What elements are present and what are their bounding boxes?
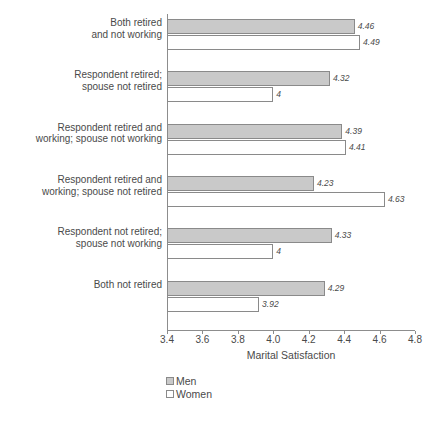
x-tick-label: 4.0 <box>266 334 280 345</box>
bar-value-label: 4.39 <box>342 125 362 137</box>
legend-swatch-men-icon <box>166 377 174 385</box>
plot-area: 4.464.494.3244.394.414.234.634.3344.293.… <box>167 16 415 330</box>
legend-label-men: Men <box>176 375 196 387</box>
x-tick-label: 4.2 <box>302 334 316 345</box>
x-tick-label: 3.6 <box>195 334 209 345</box>
bar-women[interactable] <box>167 87 273 102</box>
bar-men[interactable] <box>167 176 314 191</box>
chart-legend: Men Women <box>166 374 212 400</box>
bar-value-label: 4.63 <box>385 193 405 205</box>
category-label: Respondent retired and working; spouse n… <box>2 174 162 197</box>
bar-group: 4.334 <box>167 227 415 265</box>
bar-women[interactable] <box>167 244 273 259</box>
bar-value-label: 4.33 <box>332 229 352 241</box>
marital-satisfaction-bar-chart: Both retired and not workingRespondent r… <box>0 0 435 429</box>
category-label: Both not retired <box>2 279 162 291</box>
bar-men[interactable] <box>167 124 342 139</box>
bar-value-label: 4.32 <box>330 72 350 84</box>
bar-value-label: 4.29 <box>325 282 345 294</box>
x-axis-ticks: 3.43.63.84.04.24.44.64.8 <box>167 331 415 347</box>
bar-women[interactable] <box>167 35 360 50</box>
bar-value-label: 4 <box>273 88 281 100</box>
legend-swatch-women-icon <box>166 390 174 398</box>
bar-value-label: 3.92 <box>259 298 279 310</box>
legend-item-men[interactable]: Men <box>166 374 212 387</box>
bar-women[interactable] <box>167 192 385 207</box>
x-tick-label: 3.4 <box>160 334 174 345</box>
bar-group: 4.234.63 <box>167 175 415 213</box>
category-label: Respondent not retired; spouse not worki… <box>2 226 162 249</box>
category-label-column: Both retired and not workingRespondent r… <box>0 16 162 330</box>
x-tick-label: 4.6 <box>373 334 387 345</box>
category-label: Respondent retired; spouse not retired <box>2 69 162 92</box>
category-label: Both retired and not working <box>2 17 162 40</box>
legend-item-women[interactable]: Women <box>166 387 212 400</box>
bar-value-label: 4.23 <box>314 177 334 189</box>
bar-value-label: 4 <box>273 245 281 257</box>
bar-women[interactable] <box>167 297 259 312</box>
bar-group: 4.324 <box>167 70 415 108</box>
bar-men[interactable] <box>167 281 325 296</box>
bar-men[interactable] <box>167 228 332 243</box>
bar-value-label: 4.49 <box>360 36 380 48</box>
x-axis-title: Marital Satisfaction <box>167 349 415 361</box>
bar-women[interactable] <box>167 140 346 155</box>
bar-group: 4.394.41 <box>167 123 415 161</box>
x-tick-label: 3.8 <box>231 334 245 345</box>
legend-label-women: Women <box>176 388 212 400</box>
bar-men[interactable] <box>167 19 355 34</box>
bar-value-label: 4.41 <box>346 141 366 153</box>
x-tick-label: 4.8 <box>408 334 422 345</box>
bar-value-label: 4.46 <box>355 20 375 32</box>
bar-men[interactable] <box>167 71 330 86</box>
category-label: Respondent retired and working; spouse n… <box>2 122 162 145</box>
bar-group: 4.464.49 <box>167 18 415 56</box>
bar-group: 4.293.92 <box>167 280 415 318</box>
x-tick-label: 4.4 <box>337 334 351 345</box>
